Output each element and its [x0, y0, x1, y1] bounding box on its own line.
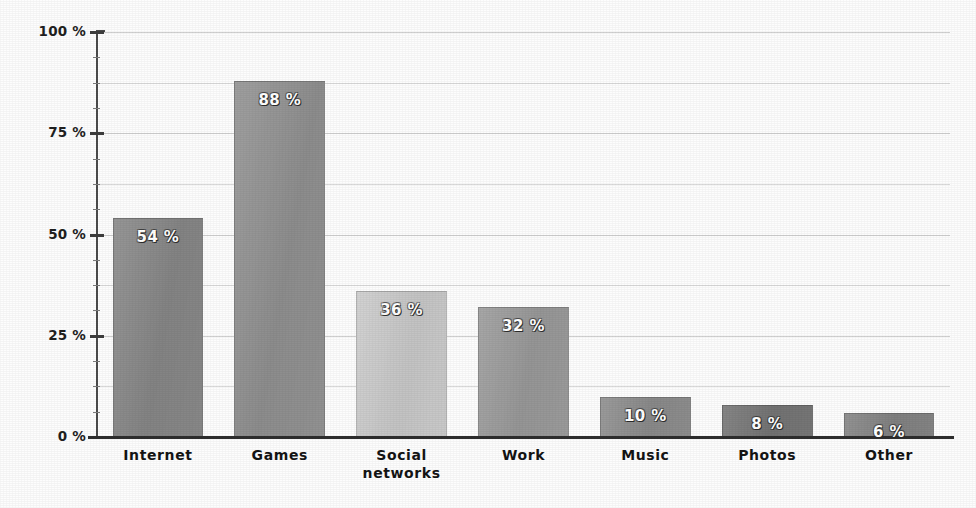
y-tick-minor-12-5	[93, 386, 100, 387]
y-tick-minor-68-75	[93, 159, 100, 160]
y-tick-minor-31-25	[93, 310, 100, 311]
bar-group[interactable]: 54 %	[113, 32, 204, 437]
y-tick-minor-56-25	[93, 209, 100, 210]
y-tick-minor-37-5	[93, 285, 100, 286]
x-axis-line	[88, 436, 954, 439]
y-axis-label-50: 50 %	[8, 226, 86, 242]
x-axis-label: Internet	[97, 446, 219, 464]
y-tick-minor-81-25	[93, 108, 100, 109]
x-axis-label: Other	[828, 446, 950, 464]
bar-group[interactable]: 10 %	[600, 32, 691, 437]
y-axis-label-0: 0 %	[8, 428, 86, 444]
x-axis-label: Photos	[706, 446, 828, 464]
bar-value-label: 6 %	[844, 423, 935, 441]
bar[interactable]	[234, 81, 325, 437]
x-axis-label: Work	[463, 446, 585, 464]
bar[interactable]	[113, 218, 204, 437]
bar-value-label: 54 %	[113, 228, 204, 246]
y-axis-label-100: 100 %	[8, 23, 86, 39]
x-axis-labels: InternetGamesSocial networksWorkMusicPho…	[97, 446, 950, 504]
x-axis-label: Social networks	[341, 446, 463, 482]
y-tick-minor-43-75	[93, 260, 100, 261]
bar-value-label: 8 %	[722, 415, 813, 433]
y-tick-minor-62-5	[93, 184, 100, 185]
bar-value-label: 10 %	[600, 407, 691, 425]
x-axis-label: Games	[219, 446, 341, 464]
bar-value-label: 36 %	[356, 301, 447, 319]
y-axis-label-75: 75 %	[8, 124, 86, 140]
bar-group[interactable]: 36 %	[356, 32, 447, 437]
y-axis-label-25: 25 %	[8, 327, 86, 343]
y-tick-minor-6-25	[93, 412, 100, 413]
bar-group[interactable]: 88 %	[234, 32, 325, 437]
y-tick-25	[90, 335, 104, 338]
y-tick-minor-18-75	[93, 361, 100, 362]
plot-area: 54 %88 %36 %32 %10 %8 %6 %	[97, 32, 950, 437]
y-tick-100	[90, 31, 104, 34]
bar-value-label: 88 %	[234, 91, 325, 109]
y-tick-50	[90, 234, 104, 237]
bar-group[interactable]: 32 %	[478, 32, 569, 437]
x-axis-label: Music	[584, 446, 706, 464]
bar-group[interactable]: 6 %	[844, 32, 935, 437]
bar-chart: 54 %88 %36 %32 %10 %8 %6 % 0 %25 %50 %75…	[0, 0, 976, 508]
y-tick-minor-93-75	[93, 57, 100, 58]
y-axis-labels: 0 %25 %50 %75 %100 %	[0, 0, 86, 508]
bar-group[interactable]: 8 %	[722, 32, 813, 437]
bar-value-label: 32 %	[478, 317, 569, 335]
y-tick-75	[90, 132, 104, 135]
y-tick-minor-87-5	[93, 83, 100, 84]
